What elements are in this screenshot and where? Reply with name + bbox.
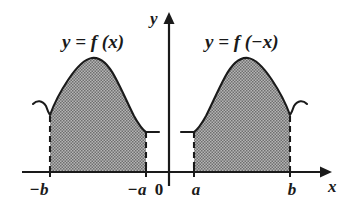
arrow-right-icon — [320, 167, 332, 178]
left-shaded-region — [50, 58, 146, 172]
even-function-figure: y = f (x) y = f (−x) y x −b −a 0 a b — [0, 0, 346, 206]
origin-label: 0 — [155, 180, 164, 199]
tick-label-minus-a: −a — [128, 180, 147, 199]
tick-label-a: a — [192, 180, 201, 199]
tick-label-b: b — [288, 180, 297, 199]
tick-label-minus-b: −b — [30, 180, 49, 199]
y-axis-label: y — [148, 9, 158, 28]
left-curve-label: y = f (x) — [60, 31, 124, 53]
right-curve-label: y = f (−x) — [203, 31, 279, 53]
right-shaded-region — [194, 58, 290, 172]
arrow-up-icon — [164, 12, 175, 24]
figure-canvas: y = f (x) y = f (−x) y x −b −a 0 a b — [0, 0, 346, 206]
x-axis-label: x — [327, 177, 337, 196]
